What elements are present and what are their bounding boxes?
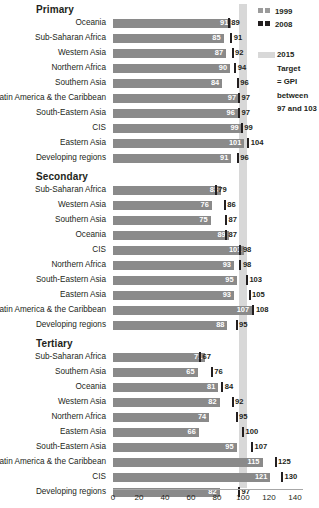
row-label: Oceania (0, 381, 106, 392)
bar-value-1999: 76 (194, 201, 209, 209)
legend-swatch-1999-b (265, 8, 270, 13)
bar-value-1999: 75 (193, 216, 208, 224)
marker-value-2008: 104 (251, 139, 264, 147)
marker-value-2008: 86 (227, 201, 235, 209)
section-title-primary: Primary (36, 4, 74, 15)
chart-row: CIS9999 (0, 121, 319, 136)
chart-row: South-Eastern Asia95107 (0, 440, 319, 455)
chart-row: Southern Asia8496 (0, 76, 319, 91)
chart-row: Southern Asia7587 (0, 213, 319, 228)
bar-value-1999: 93 (216, 261, 231, 269)
chart-row: Western Asia8292 (0, 395, 319, 410)
marker-value-2008: 84 (225, 383, 233, 391)
marker-2008 (221, 382, 223, 392)
marker-2008 (247, 138, 249, 148)
legend-label-1999: 1999 (275, 6, 292, 17)
marker-value-2008: 99 (244, 124, 252, 132)
row-label: Eastern Asia (0, 137, 106, 148)
marker-2008 (238, 93, 240, 103)
row-label: Southern Asia (0, 214, 106, 225)
legend-note-line-1: Target (277, 62, 319, 76)
bar-1999 (113, 458, 263, 467)
marker-2008 (230, 33, 232, 43)
legend-note-target: 2015Target= GPIbetween97 and 103 (277, 48, 319, 116)
marker-2008 (225, 215, 227, 225)
legend-note-line-3: between (277, 89, 319, 103)
marker-value-2008: 89 (231, 19, 239, 27)
row-label: South-Eastern Asia (0, 441, 106, 452)
marker-value-2008: 87 (229, 231, 237, 239)
row-label: Sub-Saharan Africa (0, 351, 106, 362)
marker-value-2008: 87 (229, 216, 237, 224)
section-title-secondary: Secondary (36, 171, 88, 182)
bar-value-1999: 121 (252, 473, 267, 481)
marker-2008 (239, 260, 241, 270)
marker-2008 (236, 320, 238, 330)
marker-2008 (225, 230, 227, 240)
row-label: Developing regions (0, 486, 106, 497)
chart-row: Sub-Saharan Africa7167 (0, 350, 319, 365)
marker-value-2008: 125 (278, 458, 291, 466)
row-label: Sub-Saharan Africa (0, 184, 106, 195)
row-label: Latin America & the Caribbean (0, 92, 106, 103)
row-label: Northern Africa (0, 411, 106, 422)
chart-row: Developing regions8895 (0, 318, 319, 333)
row-label: Developing regions (0, 319, 106, 330)
bar-value-1999: 101 (226, 139, 241, 147)
marker-2008 (236, 412, 238, 422)
row-label: Northern Africa (0, 259, 106, 270)
row-label: CIS (0, 122, 106, 133)
row-label: Northern Africa (0, 62, 106, 73)
row-label: Oceania (0, 229, 106, 240)
row-label: CIS (0, 471, 106, 482)
marker-value-2008: 98 (243, 246, 251, 254)
row-label: Sub-Saharan Africa (0, 32, 106, 43)
legend-swatch-target-band (258, 52, 275, 58)
legend-note-line-0: 2015 (277, 48, 319, 62)
marker-2008 (237, 78, 239, 88)
row-label: Southern Asia (0, 77, 106, 88)
marker-2008 (238, 108, 240, 118)
x-axis-line (113, 489, 303, 490)
legend-item-1999: 1999 (258, 6, 319, 17)
chart-row: Latin America & the Caribbean115125 (0, 455, 319, 470)
row-label: Southern Asia (0, 366, 106, 377)
bar-1999 (113, 246, 244, 255)
marker-2008 (241, 123, 243, 133)
chart-row: South-Eastern Asia95103 (0, 273, 319, 288)
row-label: Western Asia (0, 47, 106, 58)
bar-value-1999: 95 (219, 276, 234, 284)
chart-row: Eastern Asia101104 (0, 136, 319, 151)
bar-value-1999: 82 (202, 398, 217, 406)
bar-1999 (113, 124, 242, 133)
row-label: Eastern Asia (0, 426, 106, 437)
legend-item-2008: 2008 (258, 19, 319, 30)
row-label: Latin America & the Caribbean (0, 304, 106, 315)
marker-value-2008: 105 (252, 291, 265, 299)
bar-value-1999: 65 (180, 368, 195, 376)
marker-2008 (199, 352, 201, 362)
marker-2008 (252, 305, 254, 315)
section-title-tertiary: Tertiary (36, 338, 73, 349)
chart-row: CIS10198 (0, 243, 319, 258)
bar-value-1999: 81 (200, 383, 215, 391)
row-label: Western Asia (0, 396, 106, 407)
chart-row: CIS121130 (0, 470, 319, 485)
marker-2008 (251, 442, 253, 452)
chart-row: Sub-Saharan Africa8591 (0, 31, 319, 46)
bar-value-1999: 85 (206, 34, 221, 42)
marker-value-2008: 95 (239, 413, 247, 421)
bar-value-1999: 97 (221, 94, 236, 102)
marker-value-2008: 95 (239, 321, 247, 329)
bar-value-1999: 74 (191, 413, 206, 421)
row-label: Developing regions (0, 152, 106, 163)
bar-value-1999: 91 (213, 154, 228, 162)
marker-value-2008: 92 (235, 398, 243, 406)
marker-2008 (211, 367, 213, 377)
marker-value-2008: 108 (256, 306, 269, 314)
marker-2008 (215, 185, 217, 195)
chart-row: Developing regions9196 (0, 151, 319, 166)
bar-value-1999: 90 (212, 64, 227, 72)
marker-value-2008: 67 (203, 353, 211, 361)
marker-2008 (234, 63, 236, 73)
